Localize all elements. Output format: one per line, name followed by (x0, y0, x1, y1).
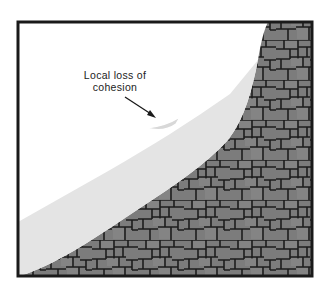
annotation-line-1: Local loss of (60, 69, 170, 81)
annotation-label: Local loss of cohesion (60, 69, 170, 93)
slope-diagram (0, 0, 327, 286)
annotation-line-2: cohesion (60, 81, 170, 93)
